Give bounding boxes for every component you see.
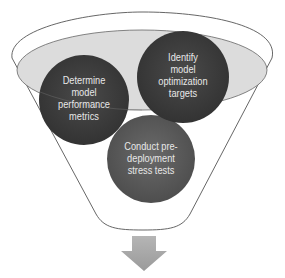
arrow-down-icon xyxy=(121,236,167,271)
label-determine-metrics: Determine model performance metrics xyxy=(44,68,123,128)
label-identify-targets: Identify model optimization targets xyxy=(143,45,222,105)
label-conduct-stress-tests: Conduct pre- deployment stress tests xyxy=(111,133,190,183)
funnel-diagram: Determine model performance metrics Iden… xyxy=(0,0,285,278)
